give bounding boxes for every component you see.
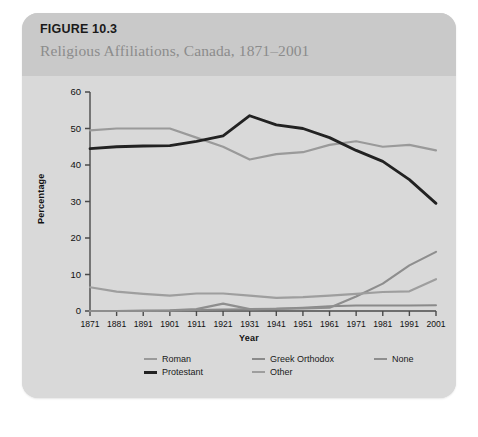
legend-item-greek-orthodox: Greek Orthodox <box>252 354 370 364</box>
legend-row-2: Protestant Other <box>22 367 456 377</box>
x-tick-label: 1891 <box>134 319 153 329</box>
legend-label-protestant: Protestant <box>162 367 203 377</box>
x-tick-label: 1991 <box>400 319 419 329</box>
x-tick-label: 1901 <box>160 319 179 329</box>
series-line-none <box>90 252 436 311</box>
x-tick-label: 1911 <box>187 319 206 329</box>
y-tick-label: 40 <box>70 159 81 170</box>
legend-swatch-greek-orthodox-icon <box>252 358 265 360</box>
x-tick-label: 1961 <box>320 319 339 329</box>
legend-row-1: Roman Greek Orthodox None <box>22 354 456 364</box>
figure-card: FIGURE 10.3 Religious Affiliations, Cana… <box>22 13 456 398</box>
legend-swatch-protestant-icon <box>144 371 157 374</box>
plot-area: 0102030405060187118811891190119111921193… <box>22 76 456 346</box>
legend-label-none: None <box>392 354 414 364</box>
x-axis-label: Year <box>32 333 456 343</box>
x-tick-label: 1881 <box>107 319 126 329</box>
x-tick-label: 1951 <box>293 319 312 329</box>
chart-legend: Roman Greek Orthodox None Protestant <box>22 354 456 380</box>
legend-label-other: Other <box>270 367 293 377</box>
x-tick-label: 1971 <box>347 319 366 329</box>
y-tick-label: 60 <box>70 86 81 97</box>
legend-swatch-none-icon <box>374 358 387 360</box>
legend-item-none: None <box>374 354 414 364</box>
y-axis-label: Percentage <box>36 173 46 224</box>
legend-item-roman: Roman <box>144 354 248 364</box>
chart-body: 0102030405060187118811891190119111921193… <box>22 76 456 398</box>
legend-item-protestant: Protestant <box>144 367 248 377</box>
line-chart-svg: 0102030405060187118811891190119111921193… <box>22 76 456 346</box>
x-tick-label: 2001 <box>426 319 445 329</box>
x-tick-label: 1931 <box>240 319 259 329</box>
figure-header: FIGURE 10.3 Religious Affiliations, Cana… <box>22 13 456 76</box>
series-line-roman <box>90 129 436 160</box>
legend-item-other: Other <box>252 367 370 377</box>
y-tick-label: 20 <box>70 232 81 243</box>
legend-swatch-roman-icon <box>144 358 157 360</box>
y-tick-label: 50 <box>70 123 81 134</box>
x-tick-label: 1871 <box>80 319 99 329</box>
x-tick-label: 1921 <box>214 319 233 329</box>
y-tick-label: 10 <box>70 269 81 280</box>
legend-label-roman: Roman <box>162 354 191 364</box>
figure-number: FIGURE 10.3 <box>40 21 456 37</box>
y-tick-label: 0 <box>76 305 81 316</box>
figure-title: Religious Affiliations, Canada, 1871–200… <box>40 40 456 62</box>
x-tick-label: 1941 <box>267 319 286 329</box>
y-tick-label: 30 <box>70 196 81 207</box>
legend-swatch-other-icon <box>252 371 265 373</box>
legend-label-greek-orthodox: Greek Orthodox <box>270 354 334 364</box>
x-tick-label: 1981 <box>373 319 392 329</box>
